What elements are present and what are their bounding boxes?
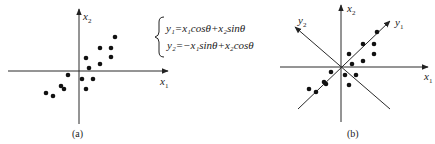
data-point: [324, 82, 329, 87]
rotation-equations: y₁=x₁cosθ+x₂sinθ y₂=−x₁sinθ+x₂cosθ: [155, 17, 254, 57]
data-point: [375, 30, 380, 35]
x1-axis-label-b: x1: [423, 70, 433, 85]
data-point: [109, 46, 114, 51]
data-point: [87, 66, 92, 71]
data-point: [314, 90, 319, 95]
data-point: [84, 87, 89, 92]
data-point: [361, 59, 366, 64]
x2-axis-label-b: x2: [346, 2, 356, 17]
data-point: [98, 62, 103, 67]
x1-axis-label: x1: [159, 75, 169, 90]
diagram-canvas: x2 x1 (a) y₁=x₁cosθ+x₂sinθ y₂=−x₁sinθ+x₂…: [0, 0, 435, 144]
x2-axis-label: x2: [82, 10, 92, 25]
caption-a: (a): [72, 128, 83, 140]
data-point: [329, 70, 334, 75]
data-point: [361, 42, 366, 47]
y2-axis-label-b: y2: [297, 14, 307, 29]
data-point: [109, 55, 114, 60]
y1-axis-label-b: y1: [394, 16, 404, 31]
scatter-points-b: [307, 30, 380, 95]
y1-axis-b: [298, 21, 390, 109]
data-point: [84, 56, 89, 61]
equation-y1: y₁=x₁cosθ+x₂sinθ: [165, 22, 246, 34]
data-point: [372, 42, 377, 47]
data-point: [51, 94, 56, 99]
data-point: [113, 35, 118, 40]
panel-b: x2 y1 y2 x1 (b): [280, 2, 433, 140]
data-point: [66, 73, 71, 78]
data-point: [44, 91, 49, 96]
caption-b: (b): [347, 128, 359, 140]
data-point: [354, 73, 359, 78]
data-point: [98, 46, 103, 51]
data-point: [347, 52, 352, 57]
y2-axis-b: [295, 27, 390, 109]
scatter-points-a: [44, 35, 118, 99]
data-point: [62, 87, 67, 92]
data-point: [91, 77, 96, 82]
data-point: [350, 62, 355, 67]
equation-y2: y₂=−x₁sinθ+x₂cosθ: [166, 39, 254, 51]
data-point: [80, 77, 85, 82]
data-point: [347, 83, 352, 88]
panel-a: x2 x1 (a): [8, 9, 169, 140]
brace-icon: [155, 17, 164, 57]
data-point: [372, 52, 377, 57]
data-point: [343, 73, 348, 78]
data-point: [307, 87, 312, 92]
